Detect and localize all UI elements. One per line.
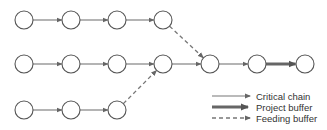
activity-node-a2 xyxy=(62,11,80,29)
activity-node-c1 xyxy=(15,101,33,119)
feeding-arrow-c3-b4 xyxy=(123,71,156,104)
legend-project-buffer-label: Project buffer xyxy=(256,102,312,113)
activity-node-b4 xyxy=(154,55,172,73)
activity-node-b2 xyxy=(62,55,80,73)
activity-node-a4 xyxy=(154,11,172,29)
critical-chain-diagram: Critical chain Project buffer Feeding bu… xyxy=(0,0,327,130)
activity-node-c3 xyxy=(108,101,126,119)
activity-node-b6 xyxy=(248,55,266,73)
activity-node-b5 xyxy=(201,55,219,73)
activity-node-c2 xyxy=(62,101,80,119)
activity-node-b7 xyxy=(296,55,314,73)
activity-node-b1 xyxy=(15,55,33,73)
legend-critical-chain-label: Critical chain xyxy=(256,91,310,102)
feeding-arrow-a4-b5 xyxy=(170,26,203,57)
activity-node-a3 xyxy=(108,11,126,29)
legend: Critical chain Project buffer Feeding bu… xyxy=(212,91,317,124)
activity-node-a1 xyxy=(15,11,33,29)
legend-feeding-buffer-label: Feeding buffer xyxy=(256,113,317,124)
activity-node-b3 xyxy=(108,55,126,73)
